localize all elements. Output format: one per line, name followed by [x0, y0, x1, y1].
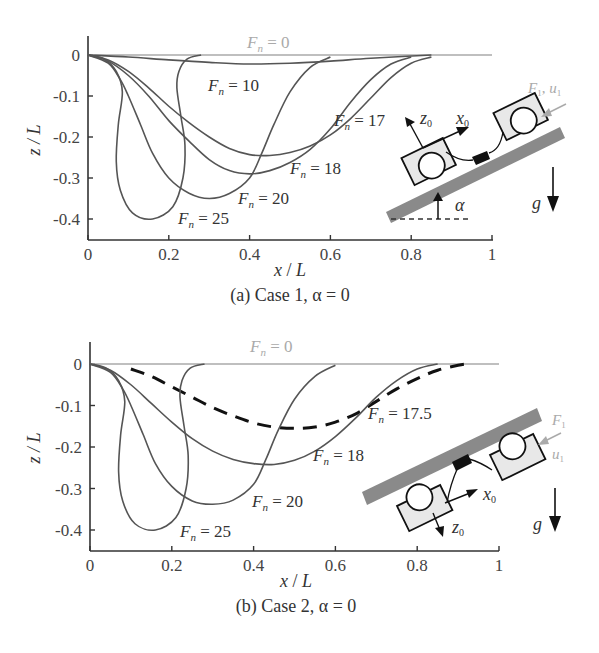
y-axis-label: z / L — [24, 124, 44, 156]
y-axis-label: z / L — [24, 432, 44, 464]
y-tick-label: 0 — [74, 355, 83, 374]
label-fn25: Fn = 25 — [177, 209, 229, 230]
x-tick-label: 1 — [488, 245, 497, 264]
label-fn25: Fn = 25 — [179, 522, 231, 543]
label-fn20: Fn = 20 — [251, 492, 303, 513]
y-tick-label: -0.3 — [55, 480, 82, 499]
x-tick-label: 0.6 — [320, 245, 341, 264]
y-tick-label: -0.3 — [53, 169, 80, 188]
force-label: F1 — [551, 412, 566, 430]
curve-10 — [88, 55, 431, 64]
x-tick-label: 0.2 — [161, 556, 182, 575]
caption-b: (b) Case 2, α = 0 — [236, 596, 357, 617]
gravity-label: g — [532, 193, 541, 213]
gravity-label: g — [533, 514, 542, 534]
x-tick-label: 0.4 — [243, 556, 265, 575]
y-tick-label: 0 — [72, 46, 81, 65]
label-fn175: Fn = 17.5 — [367, 404, 432, 425]
label-fn20: Fn = 20 — [237, 189, 289, 210]
curve-17 — [88, 55, 431, 156]
y-tick-label: -0.2 — [55, 438, 82, 457]
label-fn10: Fn = 10 — [207, 76, 259, 97]
force-label: F1, u1 — [527, 80, 561, 98]
plot-a: 00.20.40.60.810-0.1-0.2-0.3-0.4 z / L x … — [24, 33, 566, 306]
y-tick-label: -0.1 — [53, 87, 80, 106]
x0-label: x0 — [482, 484, 496, 505]
z0-label: z0 — [451, 517, 464, 538]
y-tick-label: -0.1 — [55, 397, 82, 416]
x-tick-label: 0 — [86, 556, 95, 575]
robot-inset-b: x0 z0 F1 u1 g — [362, 408, 566, 538]
label-fn0: Fn = 0 — [246, 33, 289, 54]
x-tick-label: 0.8 — [407, 556, 428, 575]
x-axis-label: x / L — [279, 571, 312, 591]
plot-b: 00.20.40.60.810-0.1-0.2-0.3-0.4 z / L x … — [24, 337, 566, 617]
x-tick-label: 0.2 — [158, 245, 179, 264]
curve-25 — [88, 55, 201, 219]
caption-a: (a) Case 1, α = 0 — [230, 285, 350, 306]
label-fn18: Fn = 18 — [289, 159, 341, 180]
x0-label: x0 — [455, 108, 469, 129]
curve-25 — [90, 364, 205, 530]
label-fn0: Fn = 0 — [249, 337, 292, 358]
x-tick-label: 0 — [84, 245, 93, 264]
alpha-label: α — [455, 195, 465, 215]
velocity-label: u1 — [552, 446, 564, 464]
x-tick-label: 0.6 — [325, 556, 346, 575]
robot-inset-a: α z0 x0 F1, u1 — [386, 80, 566, 223]
x-axis-label: x / L — [273, 260, 306, 280]
curve-20 — [90, 364, 335, 504]
label-fn17: Fn = 17 — [333, 111, 385, 132]
y-tick-label: -0.4 — [53, 210, 80, 229]
x-tick-label: 1 — [495, 556, 504, 575]
label-fn18: Fn = 18 — [312, 446, 364, 467]
z0-label: z0 — [419, 108, 432, 129]
figure: 00.20.40.60.810-0.1-0.2-0.3-0.4 z / L x … — [0, 0, 599, 653]
y-tick-label: -0.2 — [53, 128, 80, 147]
x-tick-label: 0.4 — [239, 245, 261, 264]
y-tick-label: -0.4 — [55, 521, 82, 540]
x-tick-label: 0.8 — [401, 245, 422, 264]
